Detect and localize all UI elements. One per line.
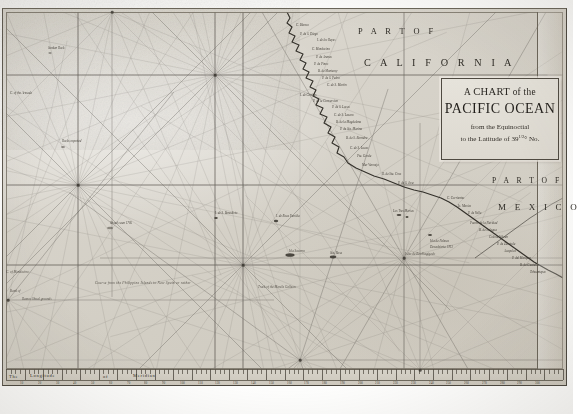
scan-vignette: [0, 0, 573, 414]
antique-chart-scan: 1020304050607080901001101201301401501601…: [0, 0, 573, 414]
